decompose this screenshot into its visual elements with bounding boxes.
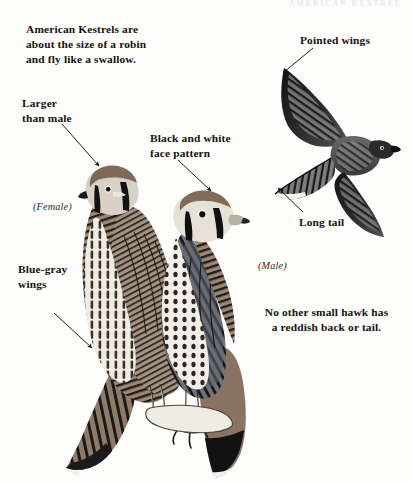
sex-label-female: (Female) bbox=[33, 200, 72, 214]
illustration-layer bbox=[0, 0, 412, 482]
intro-text: American Kestrels are about the size of … bbox=[26, 22, 216, 67]
flying-kestrel-illustration bbox=[275, 68, 401, 237]
leader-lines-layer bbox=[0, 0, 412, 482]
leader-line-longtail bbox=[278, 188, 303, 212]
running-head: AMERICAN KESTREL bbox=[289, 0, 402, 8]
annotation-long-tail: Long tail bbox=[299, 215, 344, 230]
female-kestrel-illustration bbox=[66, 166, 186, 476]
field-guide-plate: AMERICAN KESTREL bbox=[0, 0, 412, 482]
leader-line-bluegray bbox=[54, 313, 92, 348]
annotation-blue-gray-wings: Blue-gray wings bbox=[18, 262, 108, 292]
leader-line-face bbox=[178, 160, 211, 191]
annotation-larger-than-male: Larger than male bbox=[22, 96, 112, 126]
annotation-pointed-wings: Pointed wings bbox=[300, 33, 410, 48]
male-kestrel-illustration bbox=[146, 191, 250, 478]
annotation-black-and-white-face-pattern: Black and white face pattern bbox=[150, 131, 270, 161]
leader-line-pointed bbox=[283, 48, 313, 73]
leader-line-larger bbox=[62, 124, 99, 166]
caption-text: No other small hawk has a reddish back o… bbox=[244, 305, 409, 335]
sex-label-male: (Male) bbox=[258, 259, 287, 273]
